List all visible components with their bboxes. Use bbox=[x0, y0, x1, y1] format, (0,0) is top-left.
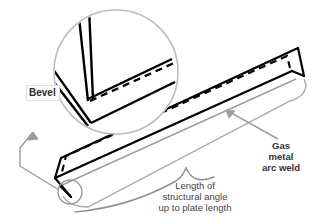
length-label: Length of structural angle up to plate l… bbox=[159, 180, 232, 214]
gmaw-label-line-1: Gas bbox=[262, 140, 300, 151]
angle-right-end-web bbox=[298, 48, 304, 76]
gmaw-leader bbox=[226, 110, 278, 139]
bevel-source-circle bbox=[58, 180, 82, 204]
bevel-leader-line bbox=[20, 132, 59, 190]
technical-diagram: Bevel Gas metal arc weld Length of struc… bbox=[0, 0, 327, 224]
gmaw-label-line-2: metal bbox=[262, 151, 300, 162]
gas-metal-arc-weld-label: Gas metal arc weld bbox=[262, 140, 300, 174]
bevel-label: Bevel bbox=[26, 85, 60, 101]
length-label-line-2: structural angle bbox=[159, 191, 232, 202]
angle-left-end-leg-inner bbox=[60, 186, 71, 197]
gmaw-leader-line bbox=[226, 110, 278, 139]
length-label-line-3: up to plate length bbox=[159, 202, 232, 213]
bevel-source-indicator bbox=[20, 132, 82, 204]
bevel-detail-callout bbox=[25, 8, 178, 134]
gmaw-label-line-3: arc weld bbox=[262, 162, 300, 173]
bevel-detail-circle bbox=[54, 10, 178, 134]
length-label-line-1: Length of bbox=[159, 180, 232, 191]
